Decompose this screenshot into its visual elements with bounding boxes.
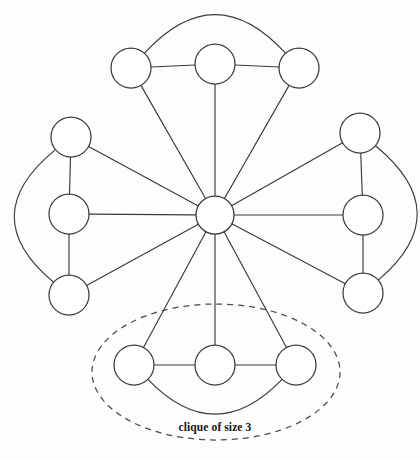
edge-left-top-to-left-mid xyxy=(70,157,71,194)
label-layer: clique of size 3 xyxy=(179,421,252,434)
edge-top-left-to-top-mid xyxy=(151,65,195,67)
spoke-hub-to-top-left xyxy=(141,85,206,198)
graph-diagram: clique of size 3 xyxy=(0,0,420,460)
spoke-hub-to-left-top xyxy=(89,147,199,206)
top-clique-node-middle[interactable] xyxy=(195,44,235,84)
left-clique-node-middle[interactable] xyxy=(49,194,89,234)
diagram-canvas: clique of size 3 xyxy=(0,0,420,460)
hub-node[interactable] xyxy=(196,196,234,234)
bottom-clique-node-right[interactable] xyxy=(276,345,316,385)
spoke-hub-to-right-bot xyxy=(232,224,345,284)
left-clique-node-top[interactable] xyxy=(51,117,91,157)
edge-top-mid-to-top-right xyxy=(235,65,279,67)
bottom-clique-node-middle[interactable] xyxy=(195,345,235,385)
right-clique-node-top[interactable] xyxy=(340,113,380,153)
spoke-hub-to-left-mid xyxy=(89,214,196,215)
left-clique-node-bottom[interactable] xyxy=(49,275,89,315)
right-clique-node-middle[interactable] xyxy=(343,195,383,235)
clique-size-label: clique of size 3 xyxy=(179,421,252,434)
edge-right-top-to-right-mid xyxy=(361,153,363,195)
spoke-hub-to-right-top xyxy=(232,143,343,206)
spoke-hub-to-bot-right xyxy=(224,232,286,348)
top-clique-node-right[interactable] xyxy=(279,48,319,88)
top-clique-node-left[interactable] xyxy=(111,48,151,88)
bottom-clique-node-left[interactable] xyxy=(114,345,154,385)
spoke-hub-to-top-right xyxy=(224,85,289,198)
right-clique-node-bottom[interactable] xyxy=(343,273,383,313)
